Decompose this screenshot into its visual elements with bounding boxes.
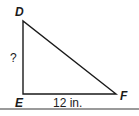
vertex-label-f: F bbox=[120, 90, 127, 102]
triangle-figure: D E F ? 12 in. bbox=[0, 0, 139, 116]
vertex-label-d: D bbox=[15, 6, 24, 18]
bottom-divider bbox=[0, 108, 139, 110]
side-label-de: ? bbox=[10, 52, 17, 64]
triangle-def bbox=[23, 21, 116, 94]
